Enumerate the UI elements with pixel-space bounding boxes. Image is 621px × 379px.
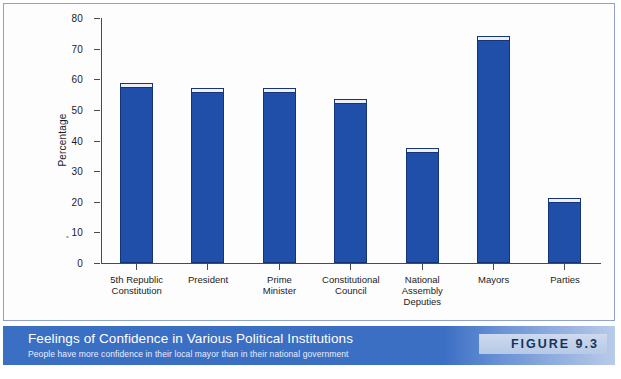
bar-mayors[interactable] [477, 41, 510, 263]
bar-slot-5: Mayors [458, 18, 529, 263]
bar-top-cap [191, 88, 224, 93]
bar-slot-3: Constitutional Council [315, 18, 386, 263]
x-label-2: Prime Minister [242, 274, 316, 296]
x-tick-6 [564, 263, 565, 270]
x-label-6-line1: Parties [528, 274, 602, 285]
x-label-3: Constitutional Council [314, 274, 388, 296]
y-tick-label-80: 80 [71, 13, 83, 24]
x-label-0: 5th Republic Constitution [100, 274, 174, 296]
stray-mark: • [66, 232, 69, 241]
bar-top-cap [334, 99, 367, 104]
x-label-4-line1: National [385, 274, 459, 285]
caption-subtitle: People have more confidence in their loc… [28, 349, 349, 359]
x-label-1: President [171, 274, 245, 285]
bar-slot-1: President [172, 18, 243, 263]
bar-slot-0: 5th Republic Constitution [101, 18, 172, 263]
bar-top-cap [548, 198, 581, 203]
y-tick-80: 80 [94, 18, 100, 19]
bar-top-cap [263, 88, 296, 93]
x-tick-1 [207, 263, 208, 270]
y-tick-label-70: 70 [71, 43, 83, 54]
bar-slot-6: Parties [529, 18, 600, 263]
y-tick-50: 50 [94, 110, 100, 111]
x-tick-3 [350, 263, 351, 270]
x-label-3-line1: Constitutional [314, 274, 388, 285]
caption-title: Feelings of Confidence in Various Politi… [28, 331, 353, 346]
y-axis-title: Percentage [57, 113, 68, 166]
x-label-2-line1: Prime [242, 274, 316, 285]
x-label-4-line2: Assembly [385, 285, 459, 296]
x-label-4: National Assembly Deputies [385, 274, 459, 307]
x-label-0-line2: Constitution [100, 285, 174, 296]
figure-number-badge: FIGURE 9.3 [479, 334, 607, 354]
x-label-2-line2: Minister [242, 285, 316, 296]
x-tick-0 [136, 263, 137, 270]
x-label-6: Parties [528, 274, 602, 285]
y-tick-label-40: 40 [71, 135, 83, 146]
y-tick-10: 10 [94, 232, 100, 233]
bar-top-cap [406, 148, 439, 153]
x-tick-2 [279, 263, 280, 270]
bar-slot-4: National Assembly Deputies [387, 18, 458, 263]
y-tick-0: 0 [94, 263, 100, 264]
x-label-1-line1: President [171, 274, 245, 285]
x-label-5: Mayors [457, 274, 531, 285]
caption-band: Feelings of Confidence in Various Politi… [3, 326, 615, 365]
x-tick-5 [493, 263, 494, 270]
bar-constitutional-council[interactable] [334, 104, 367, 263]
x-label-3-line2: Council [314, 285, 388, 296]
bar-prime-minister[interactable] [263, 93, 296, 263]
y-tick-40: 40 [94, 141, 100, 142]
bar-top-cap [477, 36, 510, 41]
bar-slot-2: Prime Minister [244, 18, 315, 263]
y-tick-label-50: 50 [71, 104, 83, 115]
x-tick-4 [422, 263, 423, 270]
y-tick-label-60: 60 [71, 74, 83, 85]
y-tick-label-10: 10 [71, 227, 83, 238]
y-tick-30: 30 [94, 171, 100, 172]
y-tick-label-0: 0 [77, 258, 83, 269]
y-tick-20: 20 [94, 202, 100, 203]
y-tick-70: 70 [94, 49, 100, 50]
bar-top-cap [120, 83, 153, 88]
y-tick-label-30: 30 [71, 166, 83, 177]
source-line [6, 369, 606, 378]
y-tick-label-20: 20 [71, 196, 83, 207]
bar-5th-republic-constitution[interactable] [120, 88, 153, 263]
x-label-0-line1: 5th Republic [100, 274, 174, 285]
bar-president[interactable] [191, 93, 224, 263]
y-tick-60: 60 [94, 79, 100, 80]
chart-figure: Percentage • 80 70 60 50 40 30 20 10 0 [3, 3, 615, 321]
bar-parties[interactable] [548, 203, 581, 263]
x-label-5-line1: Mayors [457, 274, 531, 285]
plot-area: 80 70 60 50 40 30 20 10 0 [101, 18, 601, 263]
x-label-4-line3: Deputies [385, 296, 459, 307]
bar-national-assembly-deputies[interactable] [406, 153, 439, 263]
figure-number-label: FIGURE 9.3 [511, 337, 599, 351]
